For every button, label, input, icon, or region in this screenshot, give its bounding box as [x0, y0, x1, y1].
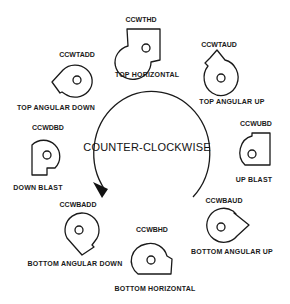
position-bottom-angular-up: CCWBAUD BOTTOM ANGULAR UP: [191, 197, 273, 255]
position-code: CCWTAUD: [201, 41, 237, 48]
fan-housing-icon: [65, 213, 99, 255]
position-bottom-angular-down: CCWBADD BOTTOM ANGULAR DOWN: [28, 201, 123, 267]
position-top-horizontal: CCWTHD TOP HORIZONTAL: [115, 16, 180, 79]
position-bottom-horizontal: CCWBHD BOTTOM HORIZONTAL: [115, 226, 196, 292]
position-label: TOP ANGULAR UP: [199, 98, 264, 105]
position-top-angular-down: CCWTADD TOP ANGULAR DOWN: [17, 51, 95, 111]
position-label: TOP HORIZONTAL: [115, 71, 180, 78]
shaft-icon: [73, 76, 81, 84]
fan-housing-icon: [240, 133, 270, 165]
position-code: CCWTHD: [125, 16, 156, 23]
position-label: BOTTOM ANGULAR DOWN: [28, 260, 123, 267]
shaft-icon: [75, 226, 83, 234]
center-label: COUNTER-CLOCKWISE: [83, 141, 210, 153]
position-code: CCWBAUD: [206, 197, 243, 204]
fan-housing-icon: [32, 140, 60, 175]
position-label: BOTTOM ANGULAR UP: [191, 248, 273, 255]
fan-housing-icon: [131, 243, 172, 274]
position-label: TOP ANGULAR DOWN: [17, 104, 95, 111]
shaft-icon: [142, 44, 150, 52]
position-top-angular-up: CCWTAUD TOP ANGULAR UP: [199, 41, 264, 105]
fan-housing-icon: [204, 50, 238, 96]
rotation-indicator: COUNTER-CLOCKWISE: [83, 91, 210, 198]
counter-clockwise-arrow: [93, 182, 108, 198]
position-label: UP BLAST: [236, 176, 273, 183]
shaft-icon: [147, 256, 155, 264]
position-up-blast: CCWUBD UP BLAST: [236, 120, 273, 183]
position-code: CCWBHD: [136, 226, 168, 233]
shaft-icon: [248, 150, 256, 158]
position-code: CCWDBD: [32, 124, 64, 131]
position-label: BOTTOM HORIZONTAL: [115, 285, 196, 292]
position-down-blast: CCWDBD DOWN BLAST: [13, 124, 64, 191]
shaft-icon: [217, 223, 225, 231]
position-code: CCWUBD: [240, 120, 272, 127]
shaft-icon: [43, 151, 51, 159]
position-code: CCWTADD: [59, 51, 95, 58]
fan-housing-icon: [52, 65, 92, 97]
fan-housing-icon: [207, 208, 249, 242]
fan-discharge-diagram: COUNTER-CLOCKWISE CCWTHD TOP HORIZONTAL …: [0, 0, 290, 304]
position-label: DOWN BLAST: [13, 184, 63, 191]
position-code: CCWBADD: [60, 201, 97, 208]
shaft-icon: [217, 74, 225, 82]
